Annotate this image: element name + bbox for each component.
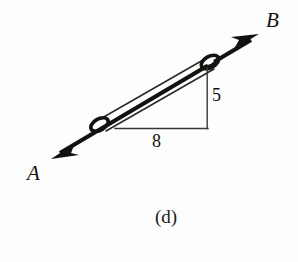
label-endpoint-b: B xyxy=(266,10,279,31)
slope-triangle xyxy=(115,68,208,129)
label-vertical-leg: 5 xyxy=(212,86,221,104)
two-force-member-diagram xyxy=(0,0,298,262)
figure-panel-d: B A 8 5 (d) xyxy=(0,0,298,262)
bar-edge-lower xyxy=(106,69,214,131)
eyelet-lower xyxy=(88,115,110,134)
label-endpoint-a: A xyxy=(27,163,40,184)
eyelet-upper xyxy=(199,52,221,71)
arrowhead-toward-b xyxy=(231,34,259,49)
figure-caption: (d) xyxy=(155,207,177,226)
bar-edge-upper xyxy=(102,56,210,118)
label-horizontal-leg: 8 xyxy=(152,132,161,150)
